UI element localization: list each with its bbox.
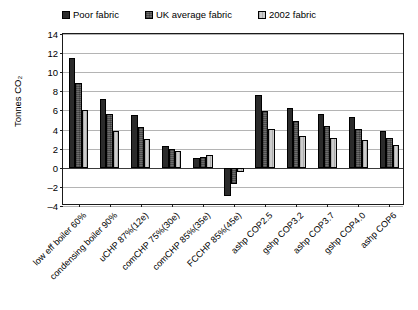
bar xyxy=(144,139,150,168)
y-tick-mark xyxy=(60,149,63,150)
x-tick-mark xyxy=(265,204,266,207)
legend-entry: 2002 fabric xyxy=(258,10,316,20)
x-tick-mark xyxy=(296,204,297,207)
y-tick-mark xyxy=(60,72,63,73)
y-tick-mark xyxy=(60,187,63,188)
y-tick-mark xyxy=(60,110,63,111)
gridline xyxy=(63,91,403,92)
x-tick-mark xyxy=(172,204,173,207)
y-tick-label: –2 xyxy=(4,181,58,192)
y-tick-label: 0 xyxy=(4,162,58,173)
bar xyxy=(362,140,368,168)
gridline xyxy=(63,110,403,111)
x-tick-mark xyxy=(327,204,328,207)
bar xyxy=(82,110,88,167)
y-tick-mark xyxy=(60,168,63,169)
legend-entry: UK average fabric xyxy=(145,10,232,20)
legend-swatch-icon xyxy=(62,11,70,19)
bar xyxy=(299,136,305,168)
bar xyxy=(268,129,274,168)
bar xyxy=(237,168,243,172)
y-tick-label: 12 xyxy=(4,48,58,59)
x-tick-mark xyxy=(79,204,80,207)
x-tick-mark xyxy=(203,204,204,207)
legend-swatch-icon xyxy=(258,11,266,19)
y-tick-mark xyxy=(60,34,63,35)
y-tick-label: –4 xyxy=(4,201,58,212)
y-tick-mark xyxy=(60,53,63,54)
x-tick-mark xyxy=(141,204,142,207)
bar xyxy=(175,151,181,168)
y-tick-label: 2 xyxy=(4,143,58,154)
x-tick-mark xyxy=(358,204,359,207)
legend-entry: Poor fabric xyxy=(62,10,119,20)
x-tick-mark xyxy=(389,204,390,207)
chart-legend: Poor fabricUK average fabric2002 fabric xyxy=(62,7,402,23)
gridline xyxy=(63,72,403,73)
bar xyxy=(113,131,119,168)
bar xyxy=(206,155,212,167)
legend-swatch-icon xyxy=(145,11,153,19)
x-axis-category-label: comCHP 75%(30e) xyxy=(120,211,181,272)
legend-label: UK average fabric xyxy=(156,10,232,20)
gridline xyxy=(63,34,403,35)
y-tick-label: 10 xyxy=(4,67,58,78)
gridline xyxy=(63,206,403,207)
x-tick-mark xyxy=(110,204,111,207)
gridline xyxy=(63,187,403,188)
legend-label: Poor fabric xyxy=(73,10,119,20)
y-tick-mark xyxy=(60,206,63,207)
y-tick-mark xyxy=(60,130,63,131)
x-tick-mark xyxy=(234,204,235,207)
x-axis-category-label: low eff boiler 60% xyxy=(31,211,87,267)
bar xyxy=(330,138,336,168)
y-tick-label: 14 xyxy=(4,29,58,40)
y-tick-label: 6 xyxy=(4,105,58,116)
y-tick-label: 8 xyxy=(4,86,58,97)
co2-emissions-bar-chart: Poor fabricUK average fabric2002 fabric … xyxy=(0,0,418,310)
legend-label: 2002 fabric xyxy=(269,10,316,20)
plot-area: 14121086420–2–4 xyxy=(62,33,404,205)
bar xyxy=(393,145,399,168)
y-tick-mark xyxy=(60,91,63,92)
gridline xyxy=(63,53,403,54)
y-tick-label: 4 xyxy=(4,124,58,135)
